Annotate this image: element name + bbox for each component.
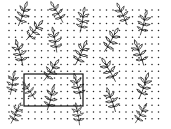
grid-dot [60,84,62,86]
grid-dot [21,118,23,120]
grid-dot [93,77,95,79]
grid-dot [158,16,160,18]
grid-dot [80,36,82,38]
grid-dot [8,30,10,32]
grid-dot [138,16,140,18]
grid-dot [93,91,95,93]
grid-dot [47,57,49,59]
grid-dot [112,9,114,11]
grid-dot [60,98,62,100]
grid-dot [15,64,17,66]
grid-dot [99,9,101,11]
grid-dot [158,111,160,113]
grid-dot [151,111,153,113]
grid-dot [60,50,62,52]
grid-dot [151,30,153,32]
grid-dot [158,57,160,59]
grid-dot [93,98,95,100]
grid-dot [67,91,69,93]
grid-dot [73,36,75,38]
grid-dot [151,16,153,18]
grid-dot [99,84,101,86]
grid-dot [125,9,127,11]
grid-dot [151,104,153,106]
grid-dot [151,118,153,120]
grid-dot [119,30,121,32]
grid-dot [86,57,88,59]
pattern-canvas [0,0,171,129]
grid-dot [47,30,49,32]
grid-dot [67,43,69,45]
grid-dot [60,111,62,113]
grid-dot [132,111,134,113]
grid-dot [106,104,108,106]
grid-dot [21,98,23,100]
grid-dot [99,50,101,52]
grid-dot [93,16,95,18]
grid-dot [106,111,108,113]
grid-dot [41,118,43,120]
grid-dot [47,84,49,86]
grid-dot [119,43,121,45]
grid-dot [138,30,140,32]
grid-dot [119,64,121,66]
grid-dot [86,111,88,113]
leaf-sprig [131,101,152,126]
grid-dot [112,23,114,25]
grid-dot [106,57,108,59]
grid-dot [106,23,108,25]
grid-dot [158,64,160,66]
grid-dot [8,91,10,93]
grid-dot [60,30,62,32]
grid-dot [67,84,69,86]
grid-dot [106,98,108,100]
grid-dot [158,36,160,38]
grid-dot [125,84,127,86]
grid-dot [119,23,121,25]
grid-dot [8,70,10,72]
grid-dot [67,36,69,38]
grid-dot [138,64,140,66]
grid-dot [86,70,88,72]
grid-dot [8,98,10,100]
grid-dot [125,36,127,38]
grid-dot [41,16,43,18]
grid-dot [112,57,114,59]
grid-dot [132,98,134,100]
grid-dot [67,57,69,59]
grid-dot [99,30,101,32]
grid-dot [73,30,75,32]
grid-dot [73,9,75,11]
grid-dot [67,77,69,79]
grid-dot [73,16,75,18]
grid-dot [132,91,134,93]
grid-dot [47,50,49,52]
grid-dot [21,91,23,93]
grid-dot [34,9,36,11]
grid-dot [8,43,10,45]
grid-dot [73,64,75,66]
grid-dot [47,23,49,25]
grid-dot [86,118,88,120]
grid-dot [99,91,101,93]
grid-dot [158,98,160,100]
grid-dot [86,104,88,106]
grid-dot [151,36,153,38]
grid-dot [34,84,36,86]
grid-dot [99,70,101,72]
grid-dot [125,50,127,52]
grid-dot [73,50,75,52]
leaf-sprig [70,38,94,68]
grid-dot [151,91,153,93]
grid-dot [99,23,101,25]
grid-dot [132,104,134,106]
grid-dot [47,64,49,66]
grid-dot [80,57,82,59]
grid-dot [145,91,147,93]
grid-dot [67,98,69,100]
grid-dot [86,9,88,11]
grid-dot [80,23,82,25]
leaf-sprig [5,70,21,96]
grid-dot [112,50,114,52]
grid-dot [86,77,88,79]
